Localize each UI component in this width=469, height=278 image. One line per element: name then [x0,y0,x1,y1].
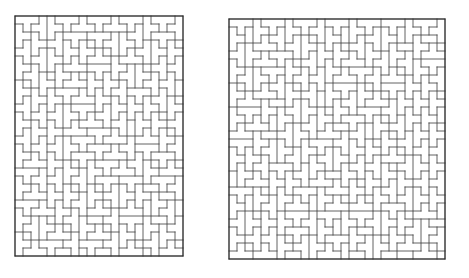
figure-plate [0,0,469,278]
left-tiling-figure [14,15,184,257]
right-tiling-figure [228,18,446,260]
